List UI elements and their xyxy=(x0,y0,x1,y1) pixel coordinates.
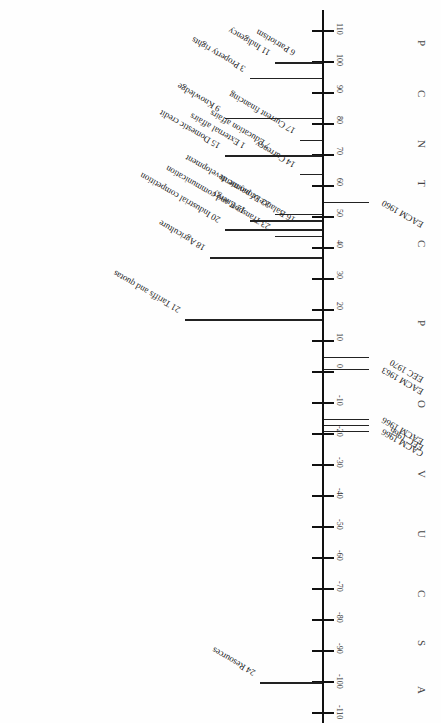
tick-label: 70 xyxy=(335,147,344,155)
scale-diagram: 1101009080706050403020100-10-20-30-40-50… xyxy=(0,0,441,723)
axis-tick xyxy=(312,619,334,621)
connector-line xyxy=(275,62,322,64)
tick-label: 50 xyxy=(335,209,344,217)
axis-tick xyxy=(312,92,334,94)
axis-tick xyxy=(312,309,334,311)
connector-line xyxy=(185,319,322,321)
title-letter: C xyxy=(416,90,428,97)
union-connector xyxy=(324,202,369,204)
tick-label: -90 xyxy=(335,643,344,654)
axis-tick xyxy=(312,216,334,218)
tick-label: 110 xyxy=(335,23,344,35)
axis-tick xyxy=(312,402,334,404)
axis-tick xyxy=(312,433,334,435)
item-label: 18 Agriculture xyxy=(157,219,207,254)
tick-label: 20 xyxy=(335,302,344,310)
title-letter: U xyxy=(416,530,428,538)
tick-label: 40 xyxy=(335,240,344,248)
title-letter: V xyxy=(416,470,428,478)
tick-label: -110 xyxy=(335,705,344,719)
union-connector xyxy=(324,419,369,421)
tick-label: 0 xyxy=(335,364,344,368)
axis-tick xyxy=(312,123,334,125)
connector-line xyxy=(300,140,322,142)
tick-label: -50 xyxy=(335,519,344,530)
title-letter: O xyxy=(416,400,428,408)
title-letter: N xyxy=(416,140,428,148)
tick-label: 60 xyxy=(335,178,344,186)
axis-tick xyxy=(312,650,334,652)
title-letter: P xyxy=(416,40,428,46)
axis-tick xyxy=(312,340,334,342)
item-label: 24 Resources xyxy=(210,645,257,678)
tick-label: -30 xyxy=(335,457,344,468)
title-letter: C xyxy=(416,590,428,597)
tick-label: 80 xyxy=(335,116,344,124)
axis-tick xyxy=(312,526,334,528)
connector-line xyxy=(300,229,322,231)
tick-label: -70 xyxy=(335,581,344,592)
tick-label: 10 xyxy=(335,333,344,341)
tick-label: -80 xyxy=(335,612,344,623)
connector-line xyxy=(210,257,322,259)
axis-tick xyxy=(312,278,334,280)
axis-tick xyxy=(312,712,334,714)
union-connector xyxy=(324,431,369,433)
tick-label: -60 xyxy=(335,550,344,561)
vertical-axis xyxy=(322,10,324,723)
union-label: EACM 1960 xyxy=(380,198,425,230)
axis-tick xyxy=(312,588,334,590)
title-letter: P xyxy=(416,320,428,326)
union-connector xyxy=(324,369,369,371)
title-letter: C xyxy=(416,240,428,247)
connector-line xyxy=(250,78,322,80)
title-letter: S xyxy=(416,640,428,646)
union-connector xyxy=(324,357,369,359)
title-letter: T xyxy=(416,180,428,187)
axis-tick xyxy=(312,371,334,373)
axis-tick xyxy=(312,247,334,249)
tick-label: -100 xyxy=(335,674,344,689)
tick-label: 100 xyxy=(335,54,344,66)
axis-tick xyxy=(312,557,334,559)
connector-line xyxy=(300,174,322,176)
union-connector xyxy=(324,425,369,427)
axis-tick xyxy=(312,495,334,497)
tick-label: -40 xyxy=(335,488,344,499)
axis-tick xyxy=(312,30,334,32)
axis-tick xyxy=(312,185,334,187)
tick-label: 90 xyxy=(335,85,344,93)
title-letter: A xyxy=(416,686,428,694)
connector-line xyxy=(275,236,322,238)
axis-tick xyxy=(312,464,334,466)
connector-line xyxy=(260,682,322,684)
tick-label: -10 xyxy=(335,395,344,406)
tick-label: 30 xyxy=(335,271,344,279)
item-label: 21 Tariffs and quotas xyxy=(111,269,182,316)
